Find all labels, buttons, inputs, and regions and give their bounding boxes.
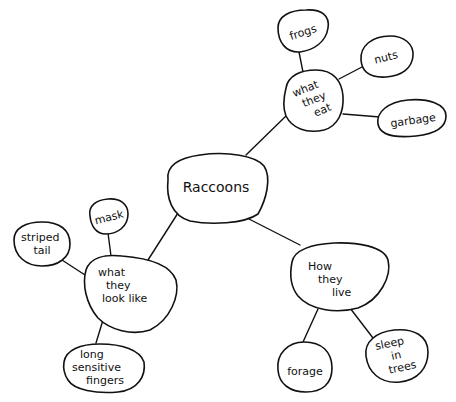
node-label: long [80,348,104,361]
node-label: live [332,286,352,299]
edge-eat-garbage [343,114,380,117]
edge-raccoons-live [247,218,300,245]
edge-live-forage [303,309,318,342]
node-label: forage [287,365,323,378]
node-label: Raccoons [183,179,250,195]
node-label: tail [33,244,50,257]
node-label: they [106,279,131,292]
node-how-they-live: How they live [291,243,389,311]
node-label: they [318,273,343,286]
mind-map-svg: Raccoons what they eat frogs nuts garbag… [0,0,456,402]
node-mask: mask [90,199,128,234]
node-nuts: nuts [361,36,413,77]
node-label: what [98,266,126,279]
edge-raccoons-eat [246,115,287,155]
node-what-they-look-like: what they look like [85,256,177,333]
node-what-they-eat: what they eat [284,70,343,131]
node-label: sensitive [72,361,121,374]
node-garbage: garbage [378,100,446,137]
node-label: fingers [86,374,124,387]
node-label: look like [102,292,147,305]
edge-eat-nuts [339,67,362,79]
svg-text:forage: forage [287,365,323,378]
edge-eat-frogs [299,52,303,72]
edge-look-striped [62,260,85,275]
mind-map-canvas: Raccoons what they eat frogs nuts garbag… [0,0,456,402]
node-sleep-in-trees: sleep in trees [366,330,428,383]
node-label: How [308,260,332,273]
node-raccoons: Raccoons [168,154,268,224]
svg-text:Raccoons: Raccoons [183,179,250,195]
edge-look-mask [108,233,111,256]
node-long-sensitive-fingers: long sensitive fingers [64,344,145,393]
edge-raccoons-look [148,213,178,260]
edge-live-sleep [350,308,373,338]
node-frogs: frogs [278,10,328,52]
edge-look-fingers [96,320,103,343]
node-striped-tail: striped tail [14,222,70,266]
node-label: striped [21,231,59,244]
node-forage: forage [278,342,332,392]
